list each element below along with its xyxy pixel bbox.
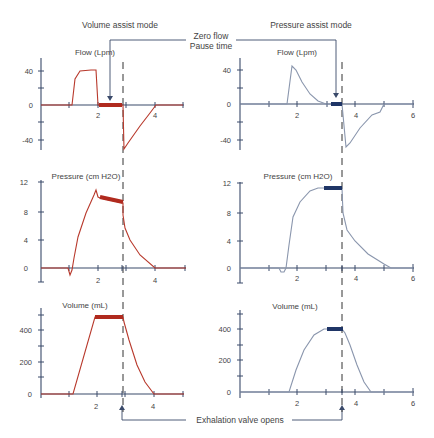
panel-title: Pressure (cm H2O): [52, 172, 121, 181]
svg-text:4: 4: [354, 274, 358, 283]
panel-title: Flow (Lpm): [75, 48, 115, 57]
panel-title: Volume (mL): [272, 302, 318, 311]
svg-text:200: 200: [218, 356, 231, 365]
svg-text:2: 2: [295, 274, 299, 283]
svg-text:12: 12: [20, 178, 28, 187]
svg-text:8: 8: [227, 209, 231, 218]
left-volume-panel: Volume (mL) 400 200 0 2 4: [19, 301, 184, 411]
svg-text:4: 4: [24, 236, 28, 245]
left-column-title: Volume assist mode: [82, 20, 158, 30]
svg-text:0: 0: [227, 100, 231, 109]
right-flow-panel: Flow (Lpm) 40 0 -40 2 4 6: [220, 48, 415, 150]
svg-text:6: 6: [411, 111, 415, 120]
exhalation-label: Exhalation valve opens: [196, 415, 283, 425]
arrow-down-icon: [107, 96, 113, 101]
right-volume-panel: Volume (mL) 400 200 0 2 4 6: [218, 302, 415, 408]
svg-text:0: 0: [227, 264, 231, 273]
pause-time-label: Pause time: [190, 41, 233, 51]
svg-text:12: 12: [223, 179, 231, 188]
svg-text:4: 4: [153, 111, 157, 120]
right-column-title: Pressure assist mode: [270, 20, 352, 30]
svg-text:4: 4: [153, 276, 157, 285]
svg-text:200: 200: [19, 358, 32, 367]
svg-text:2: 2: [94, 402, 98, 411]
svg-text:0: 0: [227, 388, 231, 397]
svg-text:-40: -40: [22, 136, 33, 145]
left-flow-panel: Flow (Lpm) 40 0 -40 2 4: [22, 48, 184, 150]
svg-text:2: 2: [295, 399, 299, 408]
svg-text:6: 6: [411, 274, 415, 283]
svg-text:0: 0: [24, 264, 28, 273]
svg-text:4: 4: [151, 402, 155, 411]
svg-text:0: 0: [29, 101, 33, 110]
arrow-up-icon: [119, 405, 125, 410]
svg-text:40: 40: [223, 66, 231, 75]
svg-text:40: 40: [25, 67, 33, 76]
zero-flow-label: Zero flow: [194, 31, 230, 41]
svg-text:4: 4: [354, 111, 358, 120]
svg-text:2: 2: [96, 276, 100, 285]
arrow-up-icon: [339, 405, 345, 410]
left-pressure-panel: Pressure (cm H2O) 12 8 4 0 2 4: [20, 172, 186, 285]
panel-title: Volume (mL): [62, 301, 108, 310]
svg-text:2: 2: [96, 111, 100, 120]
svg-text:2: 2: [295, 111, 299, 120]
svg-text:400: 400: [19, 326, 32, 335]
svg-text:4: 4: [227, 237, 231, 246]
right-pressure-panel: Pressure (cm H2O) 12 8 4 0 2 4 6: [223, 172, 415, 283]
svg-text:8: 8: [24, 208, 28, 217]
svg-text:400: 400: [218, 325, 231, 334]
panel-title: Flow (Lpm): [277, 48, 317, 57]
svg-text:0: 0: [28, 390, 32, 399]
svg-text:6: 6: [411, 399, 415, 408]
arrow-down-icon: [333, 93, 339, 98]
ventilator-waveform-figure: Volume assist mode Pressure assist mode …: [0, 0, 434, 438]
svg-text:-40: -40: [220, 136, 231, 145]
panel-title: Pressure (cm H2O): [264, 172, 333, 181]
svg-text:4: 4: [354, 399, 358, 408]
